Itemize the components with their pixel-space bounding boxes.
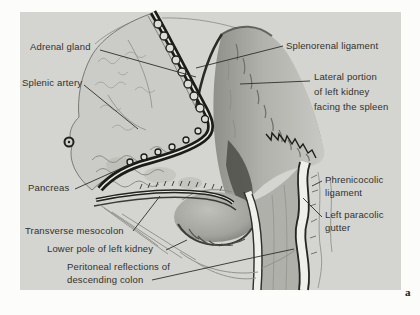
panel-letter: a bbox=[405, 286, 411, 298]
label-pancreas: Pancreas bbox=[28, 182, 69, 195]
label-phrenicocolic-ligament: Phrenicocolic ligament bbox=[325, 174, 383, 199]
label-peritoneal-reflections: Peritoneal reflections of descending col… bbox=[67, 261, 170, 286]
splenic-artery-stump bbox=[65, 138, 74, 147]
label-left-paracolic-gutter: Left paracolic gutter bbox=[325, 209, 384, 234]
label-splenorenal-ligament: Splenorenal ligament bbox=[286, 40, 378, 53]
leader-phrenicocolic bbox=[312, 181, 322, 186]
label-splenic-artery: Splenic artery bbox=[22, 77, 82, 90]
label-adrenal-gland: Adrenal gland bbox=[30, 41, 91, 54]
leader-transverse-mesocolon bbox=[133, 196, 160, 231]
label-transverse-mesocolon: Transverse mesocolon bbox=[25, 225, 124, 238]
label-lateral-portion: Lateral portion of left kidney facing th… bbox=[314, 69, 388, 114]
scanned-figure-page: Adrenal gland Splenic artery Pancreas Tr… bbox=[0, 0, 420, 315]
label-lower-pole-left-kidney: Lower pole of left kidney bbox=[47, 243, 153, 256]
